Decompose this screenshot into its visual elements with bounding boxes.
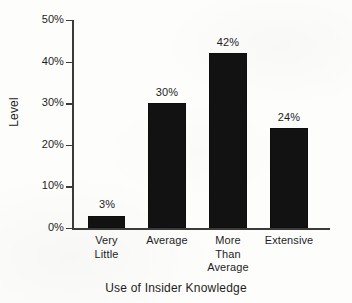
- y-tick-label: 10%: [4, 179, 64, 191]
- x-category-line: Very: [77, 234, 136, 248]
- bar-more-than-average: [209, 53, 247, 228]
- x-category-label: More Than Average: [198, 234, 258, 275]
- x-category-line: More: [198, 234, 258, 248]
- x-category-line: Little: [77, 248, 136, 262]
- y-tick-mark: [66, 20, 73, 21]
- bar-value-label: 3%: [78, 198, 136, 210]
- x-category-line: Extensive: [259, 234, 319, 248]
- y-tick-mark: [66, 228, 73, 229]
- bar-average: [148, 103, 186, 228]
- y-tick-label: 40%: [4, 55, 64, 67]
- bar-chart-figure: 50% 40% 30% 20% 10% 0% 3% 30% 42% 24% Ve…: [0, 0, 352, 303]
- y-axis-line: [72, 20, 74, 229]
- y-tick-mark: [66, 103, 73, 104]
- x-axis-line: [72, 228, 330, 230]
- bar-extensive: [270, 128, 308, 228]
- bar-value-label: 42%: [199, 36, 257, 48]
- y-tick-mark: [66, 145, 73, 146]
- x-axis-title: Use of Insider Knowledge: [0, 281, 352, 295]
- x-category-label: Average: [137, 234, 197, 248]
- plot-area: 50% 40% 30% 20% 10% 0% 3% 30% 42% 24% Ve…: [0, 0, 352, 303]
- y-tick-mark: [66, 62, 73, 63]
- x-category-label: Extensive: [259, 234, 319, 248]
- bar-value-label: 24%: [260, 111, 318, 123]
- y-tick-label: 50%: [4, 13, 64, 25]
- x-category-label: Very Little: [77, 234, 136, 261]
- bar-value-label: 30%: [138, 86, 196, 98]
- y-tick-mark: [66, 186, 73, 187]
- x-category-line: Average: [137, 234, 197, 248]
- x-category-line: Than: [198, 248, 258, 262]
- x-category-line: Average: [198, 261, 258, 275]
- y-axis-title: Level: [7, 82, 21, 142]
- y-tick-label: 0%: [4, 221, 64, 233]
- bar-very-little: [88, 216, 125, 229]
